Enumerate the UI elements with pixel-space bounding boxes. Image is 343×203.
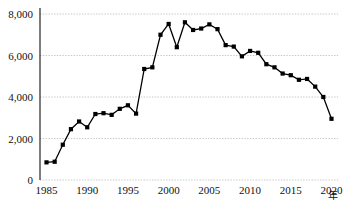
- data-point-marker: [191, 28, 195, 32]
- data-point-marker: [85, 125, 89, 129]
- y-tick-label: 4,000: [8, 91, 33, 103]
- x-tick-label: 1985: [36, 184, 59, 196]
- x-axis-tick-labels: 19851990199520002005201020152020: [36, 184, 343, 196]
- data-point-marker: [305, 77, 309, 81]
- data-point-marker: [281, 71, 285, 75]
- y-tick-label: 0: [28, 174, 34, 186]
- x-tick-label: 1995: [117, 184, 140, 196]
- data-point-marker: [61, 143, 65, 147]
- data-point-marker: [44, 160, 48, 164]
- data-point-marker: [142, 67, 146, 71]
- y-axis-tick-labels: 02,0004,0006,0008,000: [8, 8, 33, 186]
- data-point-marker: [118, 107, 122, 111]
- data-point-marker: [183, 20, 187, 24]
- y-tick-label: 2,000: [8, 133, 33, 145]
- x-tick-label: 2000: [158, 184, 181, 196]
- data-point-marker: [224, 43, 228, 47]
- data-point-marker: [272, 65, 276, 69]
- data-point-marker: [69, 127, 73, 131]
- x-tick-label: 2010: [239, 184, 262, 196]
- data-point-marker: [150, 65, 154, 69]
- data-point-marker: [207, 22, 211, 26]
- x-axis-unit-label: 年: [328, 189, 338, 201]
- x-tick-label: 2005: [198, 184, 221, 196]
- data-point-marker: [77, 119, 81, 123]
- data-point-marker: [215, 27, 219, 31]
- data-point-marker: [101, 111, 105, 115]
- data-point-marker: [297, 78, 301, 82]
- x-tick-label: 2015: [280, 184, 303, 196]
- data-point-marker: [313, 85, 317, 89]
- data-point-marker: [158, 33, 162, 37]
- data-point-marker: [232, 44, 236, 48]
- data-point-marker: [110, 113, 114, 117]
- data-point-marker: [256, 51, 260, 55]
- data-point-marker: [134, 112, 138, 116]
- data-point-marker: [126, 103, 130, 107]
- line-chart: 02,0004,0006,0008,000 198519901995200020…: [0, 0, 343, 203]
- data-point-marker: [53, 160, 57, 164]
- data-point-marker: [240, 54, 244, 58]
- data-point-marker: [289, 73, 293, 77]
- data-point-marker: [248, 49, 252, 53]
- data-point-marker: [199, 26, 203, 30]
- data-point-marker: [175, 45, 179, 49]
- data-point-marker: [93, 112, 97, 116]
- data-series: [44, 20, 333, 164]
- chart-plot-area: 02,0004,0006,0008,000 198519901995200020…: [0, 0, 343, 203]
- data-point-marker: [321, 95, 325, 99]
- series-line: [47, 22, 332, 162]
- y-tick-label: 8,000: [8, 8, 33, 20]
- y-tick-label: 6,000: [8, 50, 33, 62]
- data-point-marker: [264, 62, 268, 66]
- data-point-marker: [329, 117, 333, 121]
- gridlines: [40, 14, 338, 180]
- x-tick-label: 1990: [76, 184, 99, 196]
- data-point-marker: [167, 22, 171, 26]
